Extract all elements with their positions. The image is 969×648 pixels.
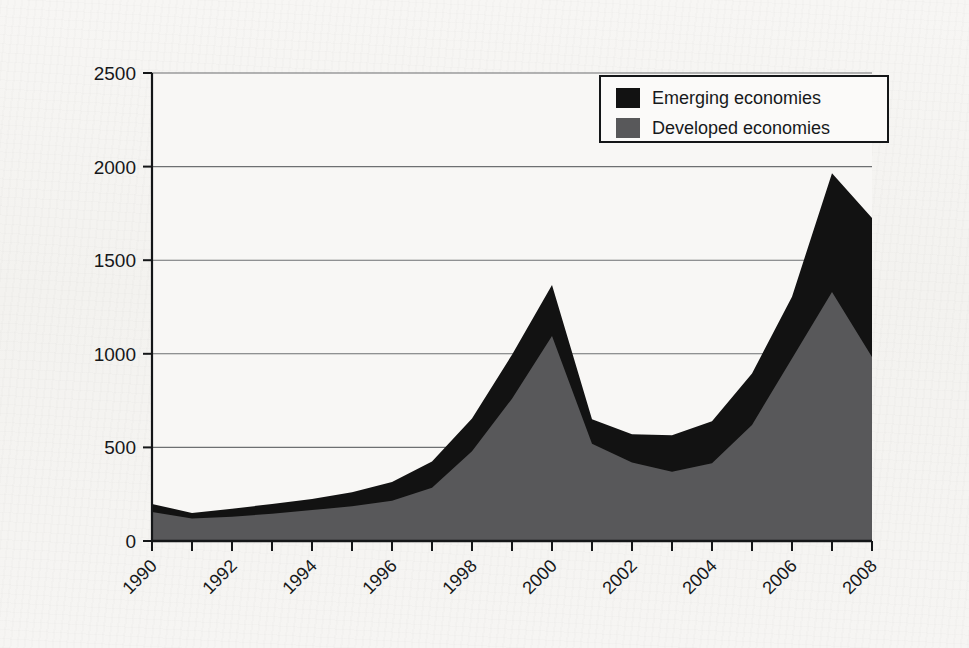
legend-swatch [616, 88, 640, 108]
legend-swatch [616, 118, 640, 138]
legend-label: Developed economies [652, 118, 830, 138]
x-tick-label: 1990 [118, 556, 160, 598]
x-tick-label: 2002 [598, 556, 640, 598]
x-axis-ticks: 1990199219941996199820002002200420062008 [118, 541, 880, 598]
x-tick-label: 2000 [518, 556, 560, 598]
x-tick-label: 2004 [678, 556, 720, 598]
x-tick-label: 2006 [758, 556, 800, 598]
y-axis-ticks: 05001000150020002500 [94, 63, 152, 552]
y-tick-label: 0 [125, 531, 136, 552]
y-tick-label: 2000 [94, 157, 136, 178]
x-tick-label: 1998 [438, 556, 480, 598]
legend-label: Emerging economies [652, 88, 821, 108]
stacked-area-chart-figure: 05001000150020002500 1990199219941996199… [0, 0, 969, 648]
x-tick-label: 1992 [198, 556, 240, 598]
x-tick-label: 1996 [358, 556, 400, 598]
y-tick-label: 2500 [94, 63, 136, 84]
x-tick-label: 2008 [838, 556, 880, 598]
y-tick-label: 500 [104, 437, 136, 458]
x-tick-label: 1994 [278, 556, 320, 598]
y-tick-label: 1500 [94, 250, 136, 271]
chart-canvas: 05001000150020002500 1990199219941996199… [0, 0, 969, 648]
y-tick-label: 1000 [94, 344, 136, 365]
chart-legend: Emerging economiesDeveloped economies [600, 76, 888, 142]
